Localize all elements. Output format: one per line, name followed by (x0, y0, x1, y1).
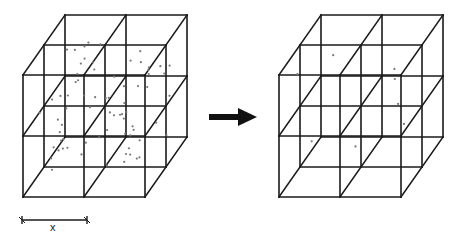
scale-bar-label: x (50, 221, 56, 233)
particle-dot (92, 61, 94, 63)
particle-dot (139, 50, 141, 52)
particle-dot (393, 68, 395, 70)
particle-dot (165, 134, 167, 136)
particle-dot (99, 43, 101, 45)
particle-dot (57, 119, 59, 121)
particle-dot (74, 49, 76, 51)
particle-dot (129, 153, 131, 155)
particle-dot (147, 69, 149, 71)
transform-arrow (209, 108, 257, 126)
particle-dot (113, 114, 115, 116)
particle-dot (394, 78, 396, 80)
particle-dot (140, 61, 142, 63)
particle-dot (62, 138, 64, 140)
particle-dot (66, 147, 68, 149)
particle-dot (60, 140, 62, 142)
scale-bar: x (19, 216, 90, 233)
particle-dot (83, 58, 85, 60)
particle-dot (87, 41, 89, 43)
particle-dot (124, 133, 126, 135)
particle-dot (66, 48, 68, 50)
particle-dot (146, 86, 148, 88)
particle-dot (130, 60, 132, 62)
dense-particle-lattice (23, 15, 187, 197)
particle-dot (77, 79, 79, 81)
particle-dot (168, 95, 170, 97)
particle-dot (125, 111, 127, 113)
particle-dot (51, 169, 53, 171)
coarse-grained-lattice (279, 15, 443, 197)
particle-dot (139, 139, 141, 141)
particle-dot (332, 54, 334, 56)
particle-dot (397, 103, 399, 105)
particle-dot (123, 102, 125, 104)
particle-dot (138, 156, 140, 158)
particle-dot (148, 73, 150, 75)
particle-dot (123, 161, 125, 163)
particle-dot (137, 85, 139, 87)
particle-dot (125, 153, 127, 155)
particle-dot (163, 72, 165, 74)
particle-dot (136, 158, 138, 160)
particle-dot (403, 123, 405, 125)
particle-dot (354, 145, 356, 147)
particle-dot (121, 113, 123, 115)
particle-dot (62, 147, 64, 149)
particle-dot (59, 95, 61, 97)
particle-dot (83, 94, 85, 96)
particle-dot (113, 76, 115, 78)
particle-dot (38, 112, 40, 114)
particle-dot (80, 62, 82, 64)
particle-dot (61, 124, 63, 126)
particle-dot (80, 153, 82, 155)
particle-dot (93, 68, 95, 70)
particle-dot (128, 147, 130, 149)
particle-dot (123, 117, 125, 119)
particle-dot (105, 97, 107, 99)
particle-dot (76, 73, 78, 75)
particle-dot (109, 111, 111, 113)
particle-dot (65, 107, 67, 109)
particle-dot (169, 64, 171, 66)
particle-dot (311, 140, 313, 142)
particle-dot (98, 136, 100, 138)
particle-dot (106, 129, 108, 131)
particle-dot (108, 97, 110, 99)
particle-dot (106, 164, 108, 166)
particle-dot (133, 129, 135, 131)
particle-dot (51, 99, 53, 101)
particle-dot (85, 142, 87, 144)
particle-dot (159, 65, 161, 67)
particle-dot (132, 125, 134, 127)
particle-dot (94, 96, 96, 98)
particle-dot (123, 85, 125, 87)
particle-dot (155, 122, 157, 124)
particle-dot (67, 94, 69, 96)
particle-dot (53, 146, 55, 148)
particle-dot (148, 66, 150, 68)
particle-dot (83, 45, 85, 47)
particle-dot (296, 73, 298, 75)
particle-dot (50, 157, 52, 159)
particle-dot (59, 131, 61, 133)
particle-dot (129, 134, 131, 136)
particle-dot (119, 114, 121, 116)
particle-dot (75, 81, 77, 83)
particle-dot (57, 149, 59, 151)
particle-dot (89, 106, 91, 108)
lattice-diagram: x (0, 0, 463, 240)
